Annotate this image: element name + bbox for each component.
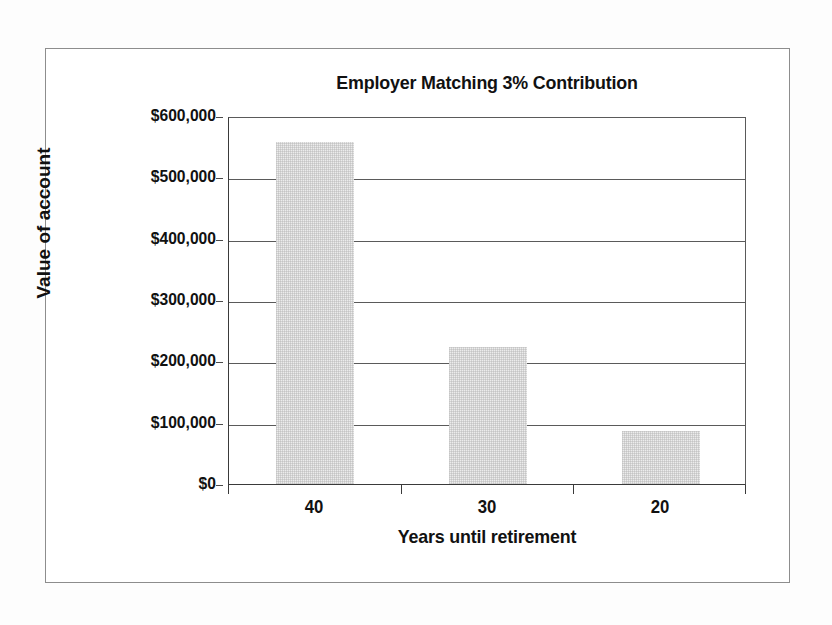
y-axis-tick-mark: [216, 485, 223, 486]
chart-title: Employer Matching 3% Contribution: [244, 72, 731, 94]
plot-area: [228, 117, 746, 485]
y-axis-tick-mark: [216, 178, 223, 179]
x-axis-tick-mark: [573, 485, 574, 494]
y-axis-title: Value of account: [33, 133, 55, 313]
x-axis-title: Years until retirement: [244, 526, 731, 548]
y-axis-tick-label: $100,000: [113, 413, 216, 433]
x-axis-tick-marks: [228, 485, 746, 494]
y-axis-tick-mark: [216, 117, 223, 118]
chart-page: Employer Matching 3% Contribution Value …: [0, 0, 832, 625]
bar: [449, 347, 527, 484]
y-axis-tick-labels: $0$100,000$200,000$300,000$400,000$500,0…: [104, 117, 216, 485]
x-axis-tick-mark: [228, 485, 229, 494]
y-axis-tick-mark: [216, 424, 223, 425]
y-axis-tick-mark: [216, 240, 223, 241]
y-axis-tick-label: $500,000: [113, 167, 216, 187]
x-axis-tick-labels: 403020: [228, 497, 746, 523]
y-axis-tick-label: $300,000: [113, 290, 216, 310]
y-axis-tick-mark: [216, 362, 223, 363]
x-axis-tick-label: 30: [450, 497, 524, 518]
y-axis-tick-label: $600,000: [113, 106, 216, 126]
x-axis-tick-label: 40: [277, 497, 351, 518]
x-axis-tick-mark: [745, 485, 746, 494]
y-axis-tick-label: $400,000: [113, 229, 216, 249]
x-axis-tick-label: 20: [622, 497, 696, 518]
y-axis-tick-label: $0: [113, 474, 216, 494]
y-axis-tick-label: $200,000: [113, 351, 216, 371]
y-axis-tick-mark: [216, 301, 223, 302]
bar: [622, 431, 700, 484]
x-axis-tick-mark: [401, 485, 402, 494]
bar: [276, 142, 354, 484]
